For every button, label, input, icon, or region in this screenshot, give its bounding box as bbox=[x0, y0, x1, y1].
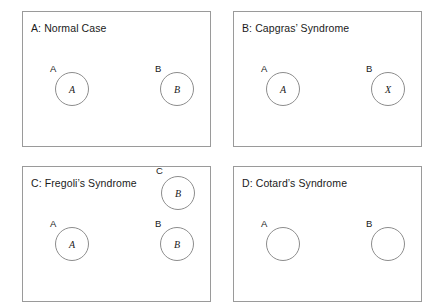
node-circle-d-b bbox=[371, 227, 405, 261]
node-circle-c-a bbox=[55, 227, 89, 261]
node-label-a-a: A bbox=[50, 64, 56, 74]
node-label-c-b: B bbox=[155, 219, 161, 229]
node-label-a-b: B bbox=[155, 64, 161, 74]
panel-title-c: C: Fregoli’s Syndrome bbox=[31, 177, 137, 189]
node-label-c-c: C bbox=[156, 166, 163, 176]
node-label-c-a: A bbox=[50, 219, 56, 229]
node-label-b-a: A bbox=[261, 64, 267, 74]
node-label-b-b: B bbox=[366, 64, 372, 74]
node-label-d-b: B bbox=[366, 219, 372, 229]
panel-title-a: A: Normal Case bbox=[31, 22, 107, 34]
node-circle-a-a bbox=[55, 72, 89, 106]
node-circle-a-b bbox=[160, 72, 194, 106]
node-circle-b-a bbox=[266, 72, 300, 106]
panel-title-d: D: Cotard’s Syndrome bbox=[242, 177, 347, 189]
node-circle-d-a bbox=[266, 227, 300, 261]
node-circle-c-c bbox=[161, 176, 195, 210]
node-circle-c-b bbox=[160, 227, 194, 261]
node-label-d-a: A bbox=[261, 219, 267, 229]
node-circle-b-b bbox=[371, 72, 405, 106]
panel-title-b: B: Capgras’ Syndrome bbox=[242, 22, 349, 34]
